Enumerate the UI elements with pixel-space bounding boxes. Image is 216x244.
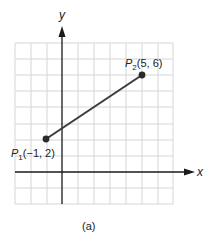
coordinate-diagram: x y P2(5, 6) P1(−1, 2) (a) (0, 0, 216, 244)
point-p2 (139, 72, 146, 79)
point-p1 (43, 136, 50, 143)
x-axis-label: x (196, 165, 204, 179)
figure-caption: (a) (82, 220, 95, 232)
point-p1-label: P1(−1, 2) (11, 147, 55, 162)
y-axis-label: y (58, 8, 66, 22)
x-axis-arrow-icon (184, 169, 195, 176)
point-p2-label: P2(5, 6) (125, 57, 162, 72)
y-axis-arrow-icon (59, 26, 66, 37)
